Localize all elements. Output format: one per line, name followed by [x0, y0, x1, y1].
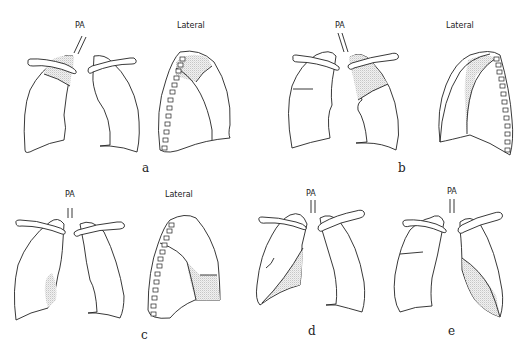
panel-label-a: a — [142, 161, 149, 175]
left-lung — [80, 222, 124, 318]
panel-label-c: c — [141, 328, 148, 342]
pa-label: PA — [65, 190, 75, 199]
pa-label: PA — [335, 21, 345, 30]
panel-d: PA d — [256, 189, 364, 338]
panel-e: PA e — [394, 187, 502, 338]
panel-a: PA Lateral a — [24, 21, 230, 175]
pa-label: PA — [306, 189, 316, 198]
left-lung — [320, 216, 365, 312]
panel-label-e: e — [448, 324, 455, 338]
pa-label: PA — [447, 187, 457, 196]
panel-label-d: d — [308, 324, 316, 338]
panel-c: PA Lateral c — [14, 190, 220, 342]
left-lung — [93, 56, 139, 152]
lateral-label: Lateral — [165, 190, 193, 199]
right-lung — [14, 219, 64, 320]
lung-collapse-diagram: PA Lateral a — [0, 0, 521, 350]
pa-label: PA — [75, 21, 85, 30]
panel-b: PA Lateral b — [289, 21, 513, 175]
trachea-icon — [74, 36, 86, 54]
lateral-label: Lateral — [177, 21, 205, 30]
lateral-label: Lateral — [446, 21, 474, 30]
panel-label-b: b — [398, 161, 406, 175]
